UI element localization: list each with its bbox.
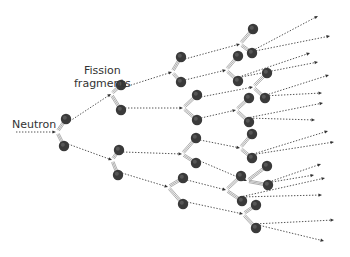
fission-event-H xyxy=(168,173,188,209)
motion-trail xyxy=(228,70,236,77)
arrowhead-icon xyxy=(318,193,322,196)
neutron-arrow xyxy=(236,61,318,78)
fragment-highlight xyxy=(193,135,197,139)
arrowhead-icon xyxy=(236,146,240,149)
motion-trail xyxy=(228,191,239,199)
motion-trail xyxy=(111,96,118,107)
neutron-arrow xyxy=(247,118,315,121)
fission-fragments-label: Fission fragments xyxy=(74,64,131,90)
motion-trail xyxy=(170,180,180,186)
arrowhead-icon xyxy=(318,92,322,95)
neutron-arrow xyxy=(68,144,112,160)
fragment-highlight xyxy=(238,173,242,177)
dotted-path xyxy=(70,95,109,121)
motion-trail xyxy=(241,32,250,42)
dotted-path xyxy=(247,103,321,118)
arrowhead-icon xyxy=(330,141,334,144)
fission-event-J xyxy=(237,93,255,127)
motion-trail xyxy=(226,58,234,67)
neutron-arrow xyxy=(266,174,314,183)
neutron-arrow xyxy=(250,141,334,155)
neutron-arrow xyxy=(250,131,328,155)
fission-event-M xyxy=(227,171,248,206)
motion-trail xyxy=(227,179,238,189)
neutron-arrow xyxy=(254,219,334,224)
dotted-path xyxy=(240,178,323,197)
fission-label-line2: fragments xyxy=(74,77,131,90)
motion-trail xyxy=(240,136,248,145)
neutron-arrow xyxy=(247,102,323,118)
fission-event-I xyxy=(253,68,272,103)
arrowhead-icon xyxy=(326,35,330,38)
fragment-highlight xyxy=(118,107,122,111)
motion-trail xyxy=(248,167,263,178)
fission-event-G xyxy=(182,133,201,168)
fragment-highlight xyxy=(235,78,239,82)
fragment-highlight xyxy=(253,202,257,206)
arrowhead-icon xyxy=(321,177,325,180)
motion-trail xyxy=(170,181,180,187)
dotted-path xyxy=(240,195,320,197)
dotted-path xyxy=(254,224,322,241)
motion-trail xyxy=(227,71,235,78)
fission-event-F xyxy=(226,51,243,86)
arrowhead-icon xyxy=(325,75,329,78)
arrowhead-icon xyxy=(239,212,243,215)
motion-trail xyxy=(228,190,239,198)
motion-trail xyxy=(185,109,194,117)
fragment-highlight xyxy=(262,95,266,99)
arrowhead-icon xyxy=(330,219,334,222)
arrowhead-icon xyxy=(164,184,168,187)
fragment-highlight xyxy=(63,116,67,120)
motion-trail xyxy=(228,60,236,69)
dotted-path xyxy=(125,73,170,87)
fragment-highlight xyxy=(265,182,269,186)
motion-trail xyxy=(242,138,250,147)
fragment-highlight xyxy=(61,143,65,147)
arrowhead-icon xyxy=(324,131,328,134)
neutron-arrow xyxy=(70,94,111,121)
fragment-highlight xyxy=(246,95,250,99)
neutron-arrow xyxy=(185,43,240,59)
neutron-arrow xyxy=(250,35,330,52)
motion-trail xyxy=(173,60,179,70)
dotted-path xyxy=(250,132,326,155)
fragment-highlight xyxy=(235,53,239,57)
dotted-path xyxy=(185,45,238,59)
fragment-highlight xyxy=(264,70,268,74)
motion-trail xyxy=(183,141,193,152)
fragment-highlight xyxy=(239,198,243,202)
arrowhead-icon xyxy=(232,109,236,112)
fragment-highlight xyxy=(249,50,253,54)
fragment-highlight xyxy=(246,119,250,123)
motion-trail xyxy=(169,179,179,185)
arrowhead-icon xyxy=(314,61,318,64)
motion-trail xyxy=(174,61,180,71)
arrowhead-icon xyxy=(317,164,321,167)
fragment-highlight xyxy=(249,155,253,159)
dotted-path xyxy=(250,36,328,52)
neutron-arrow xyxy=(123,152,182,155)
neutron-arrow xyxy=(200,140,240,149)
dotted-path xyxy=(200,140,238,148)
motion-trail xyxy=(249,169,264,180)
fission-event-D xyxy=(184,90,203,125)
dotted-path xyxy=(254,220,332,224)
neutron-arrow xyxy=(263,92,322,96)
arrowhead-icon xyxy=(320,239,324,242)
motion-trail xyxy=(238,102,247,110)
motion-trail xyxy=(249,168,264,179)
motion-trail xyxy=(254,76,264,86)
motion-trail xyxy=(227,72,235,79)
fragment-highlight xyxy=(249,131,253,135)
dotted-path xyxy=(247,118,313,120)
arrowhead-icon xyxy=(168,72,172,75)
fission-event-C xyxy=(172,52,186,87)
arrowhead-icon xyxy=(180,106,184,109)
motion-trail xyxy=(169,188,180,201)
fragment-highlight xyxy=(264,163,268,167)
motion-trail xyxy=(227,59,235,68)
fission-event-K xyxy=(240,129,257,163)
fission-event-B xyxy=(112,145,125,180)
arrowhead-icon xyxy=(236,43,240,46)
